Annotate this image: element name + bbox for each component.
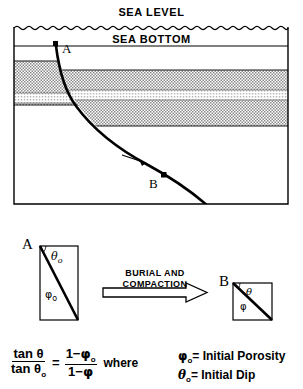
compaction-equation: tan θ tan θo = 1−φo 1−φ where — [10, 347, 138, 379]
definition-dip: θo= Initial Dip — [178, 367, 285, 386]
equation-den-right: 1−φ — [67, 365, 94, 379]
burial-compaction-caption: BURIAL AND COMPACTION — [105, 268, 205, 291]
box-b-theta-label: θ — [246, 286, 252, 297]
equation-num-right: 1−φo — [65, 347, 97, 365]
box-a-phi-label: φo — [45, 288, 57, 303]
point-b-label: B — [149, 177, 158, 190]
equation-num-left: tan θ — [12, 347, 44, 362]
equation-den-left: tan θo — [10, 362, 47, 379]
sea-bottom-label: SEA BOTTOM — [0, 33, 303, 45]
figure-canvas — [0, 0, 303, 389]
sea-level-label: SEA LEVEL — [0, 6, 303, 18]
equation-where-word: where — [101, 356, 139, 370]
symbol-definitions: φo= Initial Porosity θo= Initial Dip — [178, 348, 285, 386]
definition-porosity: φo= Initial Porosity — [178, 348, 285, 367]
point-b-marker — [161, 172, 167, 178]
box-a-label: A — [22, 237, 33, 252]
equation-equals: = — [51, 355, 61, 370]
point-a-label: A — [62, 42, 71, 55]
geology-compaction-figure: SEA LEVEL SEA BOTTOM A B A B θo φo θ φ B… — [0, 0, 303, 389]
box-a-theta-label: θo — [51, 250, 62, 265]
equation-right-fraction: 1−φo 1−φ — [65, 347, 97, 379]
box-b-label: B — [219, 274, 229, 289]
burial-line-1: BURIAL AND — [125, 268, 185, 278]
burial-line-2: COMPACTION — [123, 279, 188, 289]
box-b-phi-label: φ — [240, 301, 247, 312]
box-b-diagram — [233, 283, 272, 320]
equation-left-fraction: tan θ tan θo — [10, 347, 47, 379]
